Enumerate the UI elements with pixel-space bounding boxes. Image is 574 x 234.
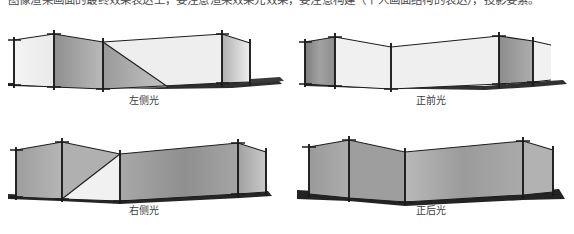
render-right-side-light xyxy=(0,120,287,208)
figure-grid: 左侧光 xyxy=(0,10,574,234)
panel-face-2c xyxy=(391,36,499,89)
panel-face-3c xyxy=(120,143,238,201)
panel-face-1b xyxy=(54,34,103,89)
clipped-heading-strip: 图像渲染画面的最终效果表达上，要注意渲染效果光效果，要注意构建（个人画面结构的表… xyxy=(0,0,574,9)
panel-face-2b xyxy=(335,37,391,89)
figure-panel-left-side-light: 左侧光 xyxy=(0,10,287,122)
panel-face-2a xyxy=(305,37,335,86)
figure-panel-back-light: 正后光 xyxy=(287,120,574,232)
figure-panel-front-light: 正前光 xyxy=(287,10,574,122)
render-front-light xyxy=(287,10,574,98)
panel-face-1a xyxy=(14,34,54,87)
panel-face-4a xyxy=(309,140,349,198)
panel-face-4b xyxy=(349,140,405,202)
figure-panel-right-side-light: 右侧光 xyxy=(0,120,287,232)
figure-caption-right-side-light: 右侧光 xyxy=(0,204,287,218)
figure-caption-back-light: 正后光 xyxy=(287,204,574,218)
figure-caption-left-side-light: 左侧光 xyxy=(0,94,287,108)
figure-caption-front-light: 正前光 xyxy=(287,94,574,108)
clipped-heading-text: 图像渲染画面的最终效果表达上，要注意渲染效果光效果，要注意构建（个人画面结构的表… xyxy=(8,0,540,7)
panel-face-2d xyxy=(499,36,533,84)
render-back-light xyxy=(287,120,574,208)
panel-face-2e xyxy=(533,41,551,82)
render-left-side-light xyxy=(0,10,287,98)
